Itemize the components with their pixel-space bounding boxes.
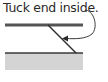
bottom-block [5, 53, 83, 70]
top-bar [5, 24, 83, 27]
tuck-diagram [0, 0, 108, 82]
